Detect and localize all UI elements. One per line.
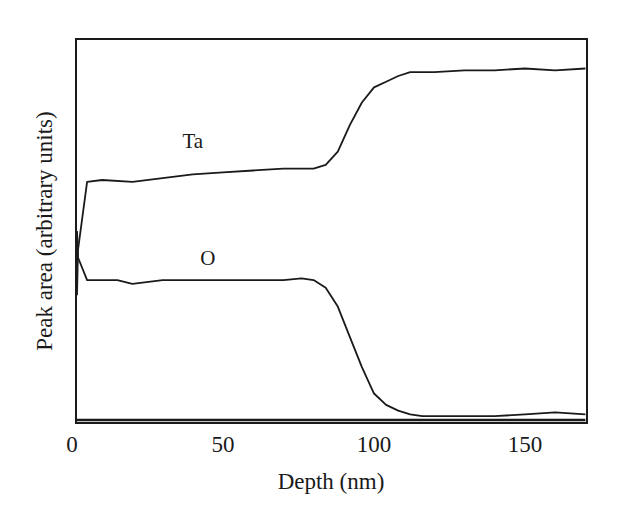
- series-line-ta: [77, 69, 585, 296]
- plot-frame: [76, 39, 587, 423]
- chart-canvas: 050100150 TaO Depth (nm) Peak area (arbi…: [0, 0, 619, 516]
- x-tick-label: 100: [357, 432, 392, 457]
- plot-lines: [77, 69, 585, 421]
- curve-labels: TaO: [182, 129, 215, 270]
- x-axis-label: Depth (nm): [278, 469, 385, 494]
- curve-label-o: O: [200, 246, 215, 270]
- depth-profile-chart: 050100150 TaO Depth (nm) Peak area (arbi…: [0, 0, 619, 516]
- series-line-o: [77, 231, 585, 416]
- x-tick-label: 50: [212, 432, 235, 457]
- curve-label-ta: Ta: [182, 129, 203, 153]
- y-axis-label: Peak area (arbitrary units): [32, 111, 57, 350]
- x-axis-tick-labels: 050100150: [66, 432, 542, 457]
- x-tick-label: 150: [508, 432, 543, 457]
- x-tick-label: 0: [66, 432, 78, 457]
